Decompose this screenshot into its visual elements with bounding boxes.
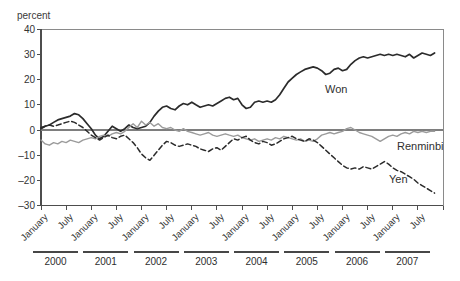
year-group-line bbox=[83, 251, 128, 253]
y-tick-label: –10 bbox=[0, 149, 35, 162]
year-label: 2000 bbox=[33, 256, 78, 267]
year-label: 2002 bbox=[134, 256, 179, 267]
year-group-line bbox=[234, 251, 279, 253]
year-group-line bbox=[184, 251, 229, 253]
y-tick-label: 40 bbox=[0, 23, 35, 36]
year-label: 2004 bbox=[234, 256, 279, 267]
year-group-line bbox=[335, 251, 380, 253]
year-label: 2001 bbox=[83, 256, 128, 267]
year-group-line bbox=[284, 251, 329, 253]
series-line-yen bbox=[41, 121, 435, 193]
year-label: 2006 bbox=[335, 256, 380, 267]
y-tick-label: –30 bbox=[0, 199, 35, 212]
y-tick-label: 20 bbox=[0, 73, 35, 86]
series-line-won bbox=[41, 53, 435, 139]
year-label: 2005 bbox=[284, 256, 329, 267]
series-label-won: Won bbox=[325, 83, 347, 95]
y-tick-label: 0 bbox=[0, 124, 35, 137]
year-label: 2003 bbox=[184, 256, 229, 267]
y-tick-label: 10 bbox=[0, 98, 35, 111]
currency-appreciation-chart: percent Won Renminbi Yen 403020100–10–20… bbox=[0, 0, 460, 281]
year-group-line bbox=[134, 251, 179, 253]
y-tick-label: 30 bbox=[0, 48, 35, 61]
y-tick-label: –20 bbox=[0, 174, 35, 187]
series-label-yen: Yen bbox=[389, 173, 408, 185]
year-group-line bbox=[33, 251, 78, 253]
year-label: 2007 bbox=[385, 256, 430, 267]
year-group-line bbox=[385, 251, 430, 253]
series-label-renminbi: Renminbi bbox=[397, 140, 443, 152]
series-line-renminbi bbox=[41, 121, 435, 145]
